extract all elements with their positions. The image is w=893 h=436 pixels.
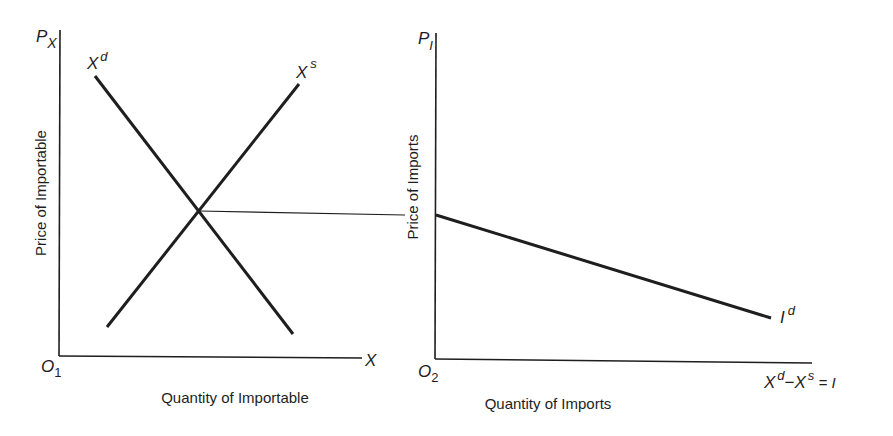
left-y-axis-title: Price of Importable	[32, 130, 49, 256]
right-y-symbol: PI	[418, 29, 433, 53]
right-x-axis-label: Xd−Xs = I	[763, 368, 836, 392]
right-y-axis	[435, 33, 436, 359]
right-origin-label: O2	[418, 362, 438, 385]
id-label: Id	[780, 303, 796, 327]
right-x-axis-title: Quantity of Imports	[485, 395, 612, 412]
import-demand-curve-id	[436, 215, 771, 318]
left-x-axis	[59, 356, 362, 358]
equilibrium-projection-line	[199, 211, 405, 215]
right-y-axis-title: Price of Imports	[404, 134, 421, 239]
right-panel: PI Id O2 Xd−Xs = I Quantity of Imports P…	[404, 29, 836, 412]
xd-label: Xd	[86, 49, 108, 73]
diagram-canvas: PX Xd Xs X O1 Quantity of Importable Pri…	[0, 0, 893, 436]
left-y-axis	[59, 30, 60, 356]
demand-curve-xd	[95, 76, 293, 334]
left-panel: PX Xd Xs X O1 Quantity of Importable Pri…	[32, 27, 405, 406]
left-x-axis-title: Quantity of Importable	[161, 389, 309, 406]
xs-label: Xs	[295, 56, 317, 82]
left-origin-label: O1	[41, 357, 61, 380]
right-x-axis	[435, 359, 812, 363]
left-x-symbol: X	[364, 351, 377, 370]
left-y-symbol: PX	[36, 27, 57, 51]
supply-curve-xs	[107, 84, 299, 327]
